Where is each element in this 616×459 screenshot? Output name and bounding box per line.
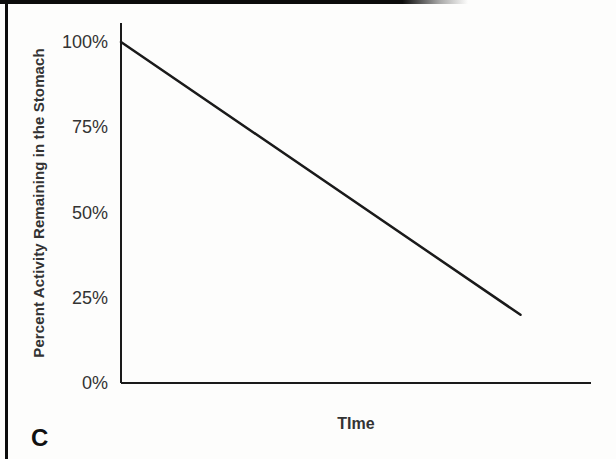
x-axis-title: TIme (337, 415, 374, 433)
panel-label: C (31, 424, 48, 452)
figure-panel: Percent Activity Remaining in the Stomac… (0, 0, 616, 459)
plot-area (0, 0, 616, 459)
data-line-series (121, 42, 521, 315)
